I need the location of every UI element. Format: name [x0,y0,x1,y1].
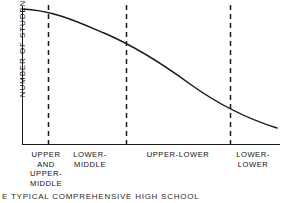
x-axis-category-lower-lower: LOWER- LOWER [222,150,284,169]
category-line: MIDDLE [58,160,122,170]
category-line: LOWER- [222,150,284,160]
y-axis-label: NUMBER OF STUDENTS [18,0,27,113]
x-axis-category-upper-lower: UPPER-LOWER [128,150,228,160]
student-distribution-curve [22,9,277,128]
socioeconomic-distribution-figure: NUMBER OF STUDENTS UPPER AND UPPER- MIDD… [0,0,287,203]
category-line: MIDDLE [16,179,76,189]
category-line: UPPER- [16,169,76,179]
x-axis-category-lower-middle: LOWER- MIDDLE [58,150,122,169]
category-line: LOWER- [58,150,122,160]
category-line: LOWER [222,160,284,170]
category-line: UPPER-LOWER [128,150,228,160]
figure-caption: E TYPICAL COMPREHENSIVE HIGH SCHOOL [2,192,199,201]
